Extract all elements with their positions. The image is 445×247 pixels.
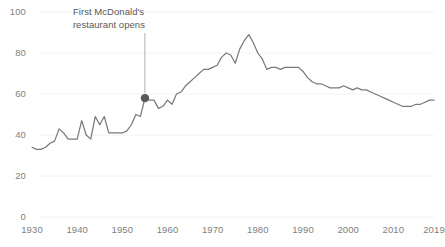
y-axis-tick-label: 100	[0, 7, 26, 17]
x-axis-tick-label: 1940	[66, 225, 88, 235]
x-axis-tick-label: 1950	[112, 225, 134, 235]
gridlines	[40, 12, 434, 217]
annotation-line-1: First McDonald's	[73, 6, 145, 19]
annotation-marker-dot	[141, 94, 149, 102]
x-axis-tick-label: 2000	[337, 225, 359, 235]
y-axis-tick-label: 0	[0, 212, 26, 222]
x-axis-tick-label: 1960	[157, 225, 179, 235]
x-axis-tick-label: 1930	[21, 225, 43, 235]
y-axis-tick-label: 60	[0, 89, 26, 99]
x-axis-tick-label: 2010	[383, 225, 405, 235]
data-series-line	[32, 35, 434, 150]
x-axis-tick-label: 1990	[292, 225, 314, 235]
annotation-line-2: restaurant opens	[73, 19, 145, 32]
annotation-label: First McDonald's restaurant opens	[73, 6, 145, 31]
x-axis-tick-label: 1980	[247, 225, 269, 235]
x-axis-tick-label: 1970	[202, 225, 224, 235]
y-axis-tick-label: 20	[0, 171, 26, 181]
x-axis-tick-label: 2019	[423, 225, 445, 235]
y-axis-tick-label: 40	[0, 130, 26, 140]
y-axis-tick-label: 80	[0, 48, 26, 58]
